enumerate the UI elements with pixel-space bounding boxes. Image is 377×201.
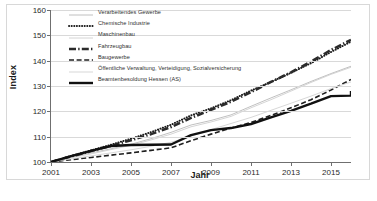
x-tick-mark (211, 162, 212, 166)
legend-swatch-dashed-icon (68, 51, 94, 62)
y-tick-mark (47, 35, 51, 36)
y-tick-label: 120 (20, 107, 46, 116)
x-tick-mark (291, 162, 292, 166)
legend-swatch-thin-solid-light-icon (68, 63, 94, 74)
y-axis-tick-labels: 160150140130120110100 (20, 10, 46, 162)
legend-label: Baugewerbe (98, 54, 130, 60)
x-tick-mark (131, 162, 132, 166)
legend-item[interactable]: Beamtenbesoldung Hessen (AS) (68, 74, 318, 85)
legend-label: Öffentliche Verwaltung, Verteidigung, So… (98, 65, 241, 71)
y-tick-mark (47, 10, 51, 11)
legend-item[interactable]: Verarbeitendes Gewerbe (68, 6, 318, 17)
legend-item[interactable]: Baugewerbe (68, 51, 318, 62)
legend-swatch-thick-dashdot-icon (68, 40, 94, 51)
series-line (51, 91, 351, 162)
y-tick-label: 140 (20, 56, 46, 65)
legend-swatch-thick-solid-icon (68, 74, 94, 85)
legend-label: Verarbeitendes Gewerbe (98, 9, 161, 15)
x-tick-mark (251, 162, 252, 166)
legend-item[interactable]: Fahrzeugbau (68, 40, 318, 51)
chart-legend: Verarbeitendes GewerbeChemische Industri… (68, 6, 318, 85)
x-tick-mark (331, 162, 332, 166)
legend-item[interactable]: Chemische Industrie (68, 17, 318, 28)
y-tick-mark (47, 162, 51, 163)
x-tick-mark (171, 162, 172, 166)
legend-label: Beamtenbesoldung Hessen (AS) (98, 76, 181, 82)
y-tick-mark (47, 61, 51, 62)
y-tick-label: 100 (20, 158, 46, 167)
y-axis-title: Index (8, 42, 18, 112)
gridline (51, 86, 351, 87)
legend-item[interactable]: Öffentliche Verwaltung, Verteidigung, So… (68, 62, 318, 73)
x-tick-mark (91, 162, 92, 166)
x-tick-mark (51, 162, 52, 166)
legend-label: Fahrzeugbau (98, 43, 132, 49)
gridline (51, 111, 351, 112)
y-tick-label: 160 (20, 6, 46, 15)
y-tick-mark (47, 137, 51, 138)
legend-label: Chemische Industrie (98, 20, 150, 26)
y-tick-mark (47, 111, 51, 112)
y-tick-mark (47, 86, 51, 87)
y-tick-label: 150 (20, 31, 46, 40)
legend-swatch-thin-solid-grey-icon (68, 29, 94, 40)
y-tick-label: 130 (20, 82, 46, 91)
chart-figure: Index 160150140130120110100 200120032005… (0, 0, 377, 201)
y-tick-label: 110 (20, 132, 46, 141)
legend-item[interactable]: Maschinenbau (68, 29, 318, 40)
legend-swatch-thin-solid-light-icon (68, 6, 94, 17)
x-axis-title: Jahr (50, 170, 350, 180)
legend-label: Maschinenbau (98, 31, 135, 37)
gridline (51, 137, 351, 138)
legend-swatch-dotted-icon (68, 17, 94, 28)
